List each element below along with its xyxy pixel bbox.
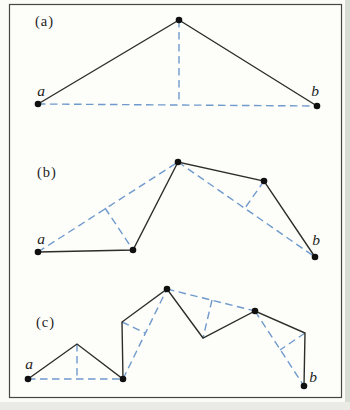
figure-frame <box>10 5 342 398</box>
panel-a-point-label-b: b <box>311 82 319 99</box>
panel-c-vertex-dot-0 <box>25 376 32 383</box>
panel-a-vertex-dot-2 <box>314 103 321 110</box>
panel-a-vertex-dot-1 <box>176 17 183 24</box>
figure-stage: (a)ab(b)ab(c)ab <box>0 0 350 410</box>
panel-c-vertex-dot-3 <box>252 308 259 315</box>
panel-b-point-label-b: b <box>312 231 320 248</box>
panel-b-point-label-a: a <box>37 230 45 247</box>
figure-canvas: (a)ab(b)ab(c)ab <box>0 0 350 410</box>
panel-c-vertex-dot-2 <box>164 286 171 293</box>
panel-b-label: (b) <box>37 164 57 181</box>
panel-b-vertex-dot-1 <box>130 247 137 254</box>
page-edge-right <box>345 0 350 410</box>
panel-a-point-label-a: a <box>37 82 45 99</box>
panel-b-vertex-dot-4 <box>312 254 319 261</box>
panel-c-point-label-a: a <box>25 355 33 372</box>
panel-c-point-label-b: b <box>309 368 317 385</box>
panel-b-vertex-dot-3 <box>261 178 268 185</box>
panel-c-vertex-dot-1 <box>120 376 127 383</box>
panel-b-vertex-dot-2 <box>175 159 182 166</box>
panel-c-label: (c) <box>36 314 55 331</box>
panel-b-vertex-dot-0 <box>35 249 42 256</box>
panel-c-vertex-dot-4 <box>301 383 308 390</box>
panel-a-label: (a) <box>35 13 54 30</box>
page-edge-bottom <box>0 402 350 410</box>
panel-a-vertex-dot-0 <box>35 101 42 108</box>
